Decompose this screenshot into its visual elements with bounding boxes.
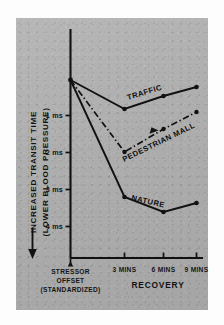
series-nature-point-9mins [194,201,199,206]
series-pedestrian-mall-label: PEDESTRIAN MALL [121,121,197,164]
axes-group [71,29,204,258]
series-pedestrian-mall-point-6mins [161,127,165,131]
series-pedestrian-mall-point-9mins [194,110,198,114]
y-axis-title-line1: INCREASED TRANSIT TIME [29,111,38,233]
x-tick-label-3mins: 3 MINS [113,266,137,273]
origin-label-line2: OFFSET [57,277,85,284]
y-axis-title-line2: (LOWER BLOOD PRESSURE) [41,107,50,236]
series-origin-point [68,78,73,83]
series-nature-label: NATURE [131,193,166,209]
x-tick-label-9mins: 9 MINS [185,266,209,273]
line-chart: 1 ms 2 ms 3 ms 4 ms 3 MINS 6 MINS 9 MINS… [0,0,224,325]
series-nature-point-3mins [122,195,127,200]
series-nature: NATURE [71,80,199,214]
figure-container: 1 ms 2 ms 3 ms 4 ms 3 MINS 6 MINS 9 MINS… [0,0,224,325]
series-traffic-label: TRAFFIC [126,83,163,102]
series-traffic: TRAFFIC [68,78,199,112]
series-traffic-point-6mins [161,94,166,99]
y-axis-title: INCREASED TRANSIT TIME (LOWER BLOOD PRES… [28,107,50,259]
origin-marker [68,261,73,267]
series-traffic-point-9mins [194,85,199,90]
x-tick-label-6mins: 6 MINS [152,266,176,273]
x-tick-labels-group: 3 MINS 6 MINS 9 MINS [113,266,209,273]
series-nature-point-6mins [161,210,166,215]
origin-axis-label: STRESSOR OFFSET (STANDARDIZED) [40,268,100,294]
origin-label-line1: STRESSOR [51,268,90,275]
origin-label-line3: (STANDARDIZED) [40,286,100,294]
series-traffic-point-3mins [122,107,127,112]
x-axis-title: RECOVERY [131,280,184,290]
x-ticks-group [68,253,197,267]
